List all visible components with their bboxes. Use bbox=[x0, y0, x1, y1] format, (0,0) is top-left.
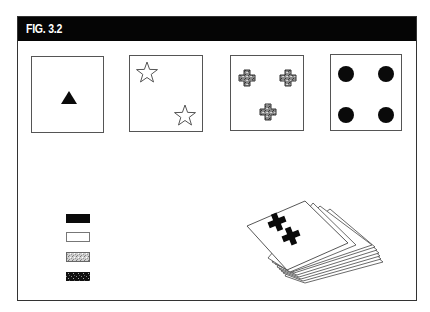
star-icon bbox=[175, 105, 196, 125]
cross-icon bbox=[260, 104, 276, 120]
circle-icon bbox=[338, 66, 354, 82]
figure-title: FIG. 3.2 bbox=[26, 22, 62, 36]
circle-icon bbox=[338, 107, 354, 123]
circle-icon bbox=[378, 66, 394, 82]
cross-icon bbox=[280, 70, 296, 86]
card-two-stars bbox=[129, 55, 203, 132]
card-three-crosses bbox=[230, 55, 304, 131]
circle-icon bbox=[378, 107, 394, 123]
card-four-circles bbox=[330, 54, 402, 131]
star-icon bbox=[137, 62, 158, 82]
card-one-triangle bbox=[31, 56, 104, 133]
cross-icon bbox=[239, 70, 255, 86]
triangle-icon bbox=[32, 57, 105, 134]
figure-header: FIG. 3.2 bbox=[18, 17, 416, 41]
